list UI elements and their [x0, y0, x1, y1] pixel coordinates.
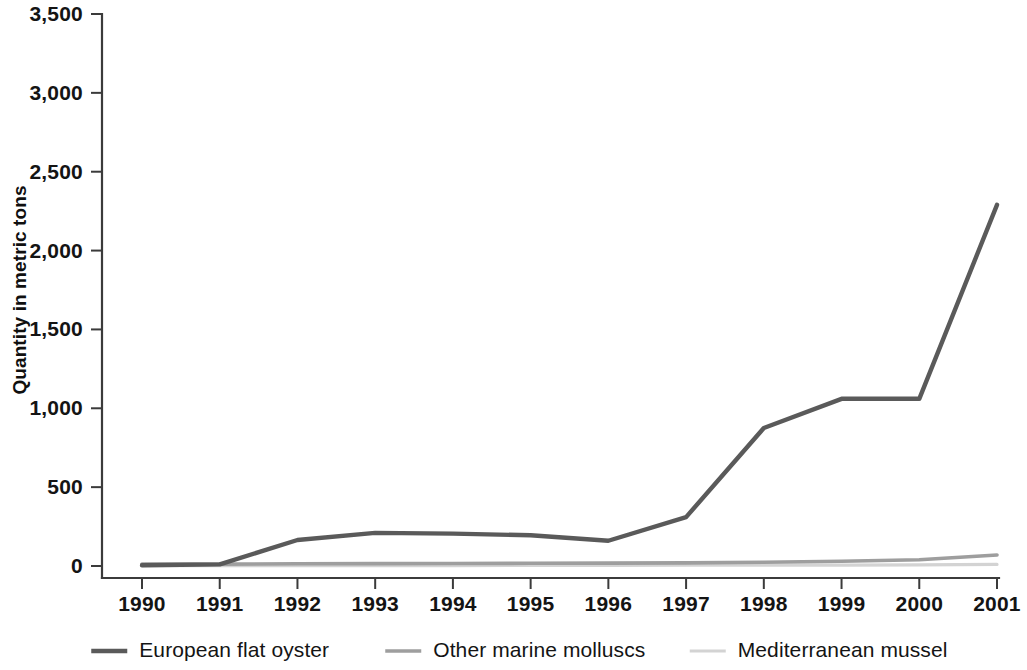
chart-legend: European flat oysterOther marine mollusc…: [91, 638, 947, 661]
chart-background: [0, 0, 1027, 670]
x-axis-tick-label: 1991: [196, 592, 244, 615]
y-axis-tick-label: 3,500: [29, 2, 83, 25]
x-axis-tick-label: 1992: [274, 592, 322, 615]
y-axis-tick-label: 2,000: [29, 239, 83, 262]
x-axis-tick-label: 1993: [351, 592, 399, 615]
line-chart: 05001,0001,5002,0002,5003,0003,500 19901…: [0, 0, 1027, 670]
legend-label: European flat oyster: [139, 638, 329, 661]
y-axis-tick-label: 1,500: [29, 317, 83, 340]
chart-container: 05001,0001,5002,0002,5003,0003,500 19901…: [0, 0, 1027, 670]
x-axis-tick-label: 1999: [818, 592, 866, 615]
x-axis-tick-label: 1998: [740, 592, 788, 615]
y-axis-title: Quantity in metric tons: [9, 185, 30, 394]
y-axis-tick-label: 0: [71, 554, 83, 577]
x-axis-tick-label: 1997: [662, 592, 710, 615]
x-axis-tick-label: 1990: [118, 592, 166, 615]
y-axis-tick-label: 2,500: [29, 160, 83, 183]
y-axis-tick-label: 1,000: [29, 396, 83, 419]
x-axis-tick-label: 1994: [429, 592, 477, 615]
legend-label: Other marine molluscs: [433, 638, 645, 661]
x-axis-tick-label: 1996: [585, 592, 633, 615]
y-axis-tick-label: 500: [47, 475, 83, 498]
legend-label: Mediterranean mussel: [738, 638, 948, 661]
x-axis-tick-label: 1995: [507, 592, 555, 615]
x-axis-tick-label: 2001: [973, 592, 1021, 615]
y-axis-tick-label: 3,000: [29, 81, 83, 104]
x-axis-tick-label: 2000: [896, 592, 944, 615]
